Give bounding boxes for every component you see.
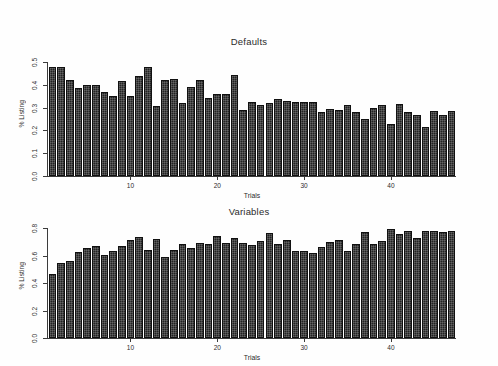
bar — [274, 244, 282, 338]
bar — [257, 105, 265, 176]
bar — [49, 274, 57, 338]
x-axis-title-variables: Trials — [48, 354, 456, 361]
bar — [144, 67, 152, 176]
y-tick-mark — [43, 130, 47, 131]
bar — [361, 232, 369, 338]
bar — [66, 80, 74, 176]
y-tick-label: 0.2 — [29, 122, 41, 138]
chart-title-defaults: Defaults — [0, 36, 498, 47]
bar — [352, 112, 360, 176]
y-tick-mark — [43, 311, 47, 312]
chart-title-variables: Variables — [0, 206, 498, 217]
bar — [248, 102, 256, 176]
bar — [266, 103, 274, 176]
bar — [344, 105, 352, 176]
y-tick-label: 0.4 — [29, 77, 41, 93]
y-tick-label: 0.0 — [29, 168, 41, 184]
y-tick-label: 0.1 — [29, 145, 41, 161]
bar — [205, 98, 213, 176]
y-axis-title-defaults: % Listing — [18, 100, 25, 128]
bar — [396, 234, 404, 339]
bar-series-defaults — [48, 62, 456, 176]
y-tick-label: 0.5 — [29, 54, 41, 70]
plot-area-variables: 0.00.20.40.60.8 10203040 % Listing Trial… — [48, 228, 456, 338]
bar — [361, 119, 369, 176]
bar — [335, 110, 343, 176]
chart-panel-variables: Variables 0.00.20.40.60.8 10203040 % Lis… — [0, 200, 498, 366]
bar — [92, 246, 100, 338]
bar — [92, 85, 100, 176]
figure-canvas: Defaults 0.00.10.20.30.40.5 10203040 % L… — [0, 0, 498, 366]
y-tick-mark — [43, 338, 47, 339]
bar — [83, 248, 91, 338]
x-axis-line-defaults — [47, 176, 456, 177]
bar — [57, 263, 65, 338]
bar — [309, 102, 317, 176]
bar — [222, 94, 230, 176]
bar — [352, 244, 360, 338]
bar — [161, 257, 169, 338]
bar — [101, 255, 109, 338]
x-tick-mark — [304, 338, 305, 342]
bar — [283, 240, 291, 338]
bar — [422, 127, 430, 176]
bar-series-variables — [48, 228, 456, 338]
bar — [300, 251, 308, 338]
bar — [439, 115, 447, 176]
x-tick-mark — [391, 338, 392, 342]
bar — [300, 102, 308, 176]
bar — [335, 240, 343, 338]
x-tick-mark — [217, 176, 218, 180]
bar — [439, 232, 447, 338]
x-tick-mark — [304, 176, 305, 180]
bar — [135, 237, 143, 338]
plot-area-defaults: 0.00.10.20.30.40.5 10203040 % Listing Tr… — [48, 62, 456, 176]
bar — [430, 231, 438, 338]
bar — [248, 245, 256, 338]
bar — [118, 246, 126, 338]
x-tick-mark — [130, 338, 131, 342]
x-tick-label: 20 — [214, 182, 221, 189]
x-tick-label: 30 — [300, 182, 307, 189]
x-tick-label: 10 — [127, 344, 134, 351]
bar — [387, 124, 395, 176]
y-tick-label: 0.8 — [29, 220, 41, 236]
x-tick-label: 40 — [387, 182, 394, 189]
bar — [101, 92, 109, 176]
bar — [326, 242, 334, 338]
x-tick-label: 30 — [300, 344, 307, 351]
x-tick-mark — [217, 338, 218, 342]
bar — [448, 111, 456, 176]
bar — [153, 106, 161, 176]
bar — [387, 229, 395, 338]
bar — [404, 112, 412, 176]
bar — [127, 240, 135, 338]
y-axis-title-variables: % Listing — [18, 262, 25, 290]
y-tick-label: 0.6 — [29, 248, 41, 264]
bar — [127, 96, 135, 176]
bar — [309, 253, 317, 338]
bar — [187, 248, 195, 338]
bar — [109, 96, 117, 176]
bar — [413, 238, 421, 338]
bar — [153, 239, 161, 338]
bar — [213, 94, 221, 176]
bar — [448, 231, 456, 338]
y-tick-label: 0.0 — [29, 330, 41, 346]
bar — [430, 111, 438, 176]
y-tick-mark — [43, 176, 47, 177]
bar — [413, 115, 421, 176]
bar — [378, 105, 386, 176]
x-tick-mark — [391, 176, 392, 180]
bar — [75, 88, 83, 176]
bar — [179, 103, 187, 176]
y-tick-label: 0.3 — [29, 100, 41, 116]
bar — [49, 67, 57, 176]
y-tick-mark — [43, 62, 47, 63]
bar — [370, 108, 378, 176]
y-tick-mark — [43, 85, 47, 86]
bar — [239, 110, 247, 176]
x-tick-label: 10 — [127, 182, 134, 189]
chart-panel-defaults: Defaults 0.00.10.20.30.40.5 10203040 % L… — [0, 28, 498, 200]
bar — [318, 112, 326, 176]
